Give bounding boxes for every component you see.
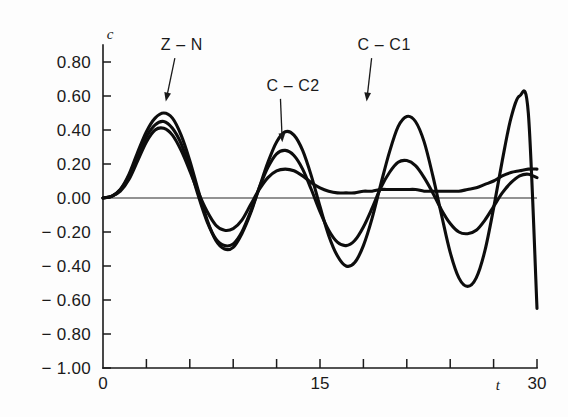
y-tick-label: − 0.60 bbox=[41, 291, 91, 310]
series-annotation-label: C – C2 bbox=[266, 77, 319, 94]
annotation-arrow-head bbox=[364, 92, 371, 101]
y-axis-title: c bbox=[107, 26, 114, 42]
annotation-arrow-head bbox=[164, 92, 171, 102]
annotation-leader-line bbox=[167, 58, 175, 95]
y-tick-label: − 0.40 bbox=[41, 257, 91, 276]
series-annotation-label: Z – N bbox=[161, 36, 203, 53]
line-chart-svg: Z – NC – C2C – C1 0.800.600.400.200.00− … bbox=[0, 0, 568, 417]
data-curves bbox=[103, 91, 537, 309]
series-curve bbox=[103, 121, 537, 246]
y-tick-label: 0.40 bbox=[57, 121, 91, 140]
series-annotation-label: C – C1 bbox=[358, 36, 411, 53]
y-tick-label: 0.60 bbox=[57, 87, 91, 106]
annotation-leader-line bbox=[280, 99, 282, 135]
y-axis-ticks bbox=[103, 62, 111, 368]
x-axis-ticks bbox=[146, 359, 537, 368]
y-tick-label: − 1.00 bbox=[41, 359, 91, 378]
y-tick-label: − 0.20 bbox=[41, 223, 91, 242]
series-annotations: Z – NC – C2C – C1 bbox=[161, 36, 411, 142]
y-tick-label: 0.80 bbox=[57, 53, 91, 72]
x-axis-title: t bbox=[496, 377, 501, 393]
y-tick-label: − 0.80 bbox=[41, 325, 91, 344]
x-tick-label: 15 bbox=[311, 374, 330, 393]
x-axis-tick-labels: 01530 bbox=[98, 374, 546, 393]
chart-figure: Z – NC – C2C – C1 0.800.600.400.200.00− … bbox=[0, 0, 568, 417]
x-tick-label: 30 bbox=[528, 374, 547, 393]
x-tick-label: 0 bbox=[98, 374, 107, 393]
y-axis-tick-labels: 0.800.600.400.200.00− 0.20− 0.40− 0.60− … bbox=[41, 53, 91, 378]
annotation-leader-line bbox=[367, 58, 371, 94]
y-tick-label: 0.00 bbox=[57, 189, 91, 208]
y-tick-label: 0.20 bbox=[57, 155, 91, 174]
